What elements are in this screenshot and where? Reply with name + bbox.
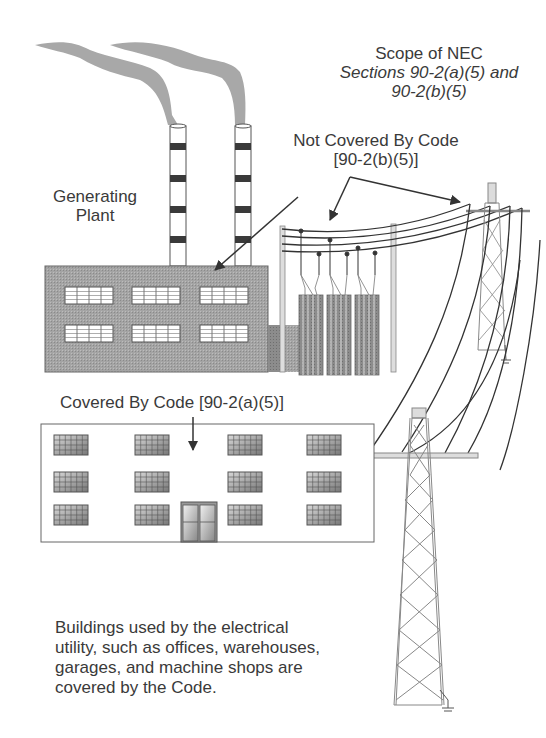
smokestack-left (170, 124, 186, 266)
plant-label-line-2: Plant (40, 206, 150, 225)
generating-plant (45, 266, 316, 372)
title-line-1: Scope of NEC (322, 44, 536, 63)
caption: Buildings used by the electrical utility… (55, 618, 375, 698)
generating-plant-label: Generating Plant (40, 187, 150, 225)
transmission-tower-near (361, 408, 478, 711)
title-line-2: Sections 90-2(a)(5) and (322, 63, 536, 82)
caption-line-2: utility, such as offices, warehouses, (55, 638, 375, 658)
diagram-title: Scope of NEC Sections 90-2(a)(5) and 90-… (322, 44, 536, 101)
caption-line-1: Buildings used by the electrical (55, 618, 375, 638)
smoke-plumes (35, 42, 245, 125)
not-covered-text: Not Covered By Code (258, 131, 494, 150)
not-covered-reference: [90-2(b)(5)] (258, 150, 494, 169)
utility-office-building (41, 424, 374, 542)
double-door (181, 502, 217, 542)
substation (280, 204, 522, 375)
not-covered-label: Not Covered By Code [90-2(b)(5)] (258, 131, 494, 169)
plant-label-line-1: Generating (40, 187, 150, 206)
caption-line-3: garages, and machine shops are (55, 658, 375, 678)
transmission-tower-far (466, 183, 530, 363)
covered-label: Covered By Code [90-2(a)(5)] (60, 393, 360, 412)
caption-line-4: covered by the Code. (55, 678, 375, 698)
title-line-3: 90-2(b)(5) (322, 82, 536, 101)
